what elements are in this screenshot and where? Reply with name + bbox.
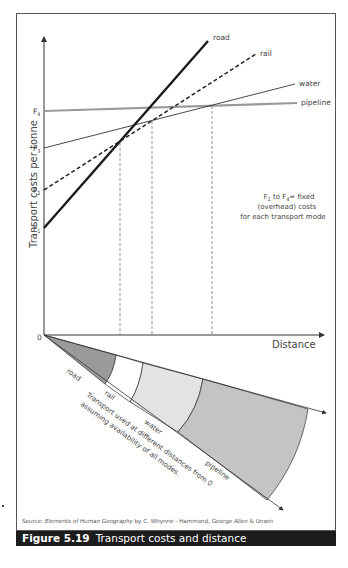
source-title: Elements of Human Geography [45, 518, 133, 524]
source-prefix: Source: [22, 518, 43, 524]
source-rest: by C. Whynne - Hammond, George Allen & U… [135, 518, 274, 524]
pipeline-label: pipeline [301, 98, 331, 107]
annotation-line3: for each transport mode [240, 213, 325, 221]
rail-line [44, 54, 256, 190]
water-label: water [299, 79, 321, 88]
figure-caption: Figure 5.19Transport costs and distance [16, 531, 336, 546]
pipeline-line [44, 103, 297, 111]
x-axis-label: Distance [272, 339, 316, 350]
road-line [44, 41, 208, 228]
tick-f4: F4 [33, 107, 41, 117]
rail-label: rail [260, 49, 272, 58]
source-credit: Source: Elements of Human Geography by C… [22, 518, 273, 524]
origin-label: 0 [37, 333, 42, 342]
fan-label-road: road [65, 367, 82, 383]
annotation-line2: (overhead) costs [258, 203, 317, 211]
annotation-line1: F1 to F4= fixed [263, 193, 314, 202]
water-line [44, 84, 295, 148]
y-axis-label: Transport costs per tonne [28, 120, 39, 249]
transport-cost-diagram: road rail water pipeline F4 F3 F2 F1 Tra… [0, 0, 348, 568]
road-label: road [213, 33, 230, 42]
figure-title: Transport costs and distance [96, 532, 247, 544]
margin-mark [2, 505, 4, 507]
figure-number: Figure 5.19 [22, 532, 90, 544]
transport-fan: road rail water pipeline Transport used … [44, 335, 326, 510]
